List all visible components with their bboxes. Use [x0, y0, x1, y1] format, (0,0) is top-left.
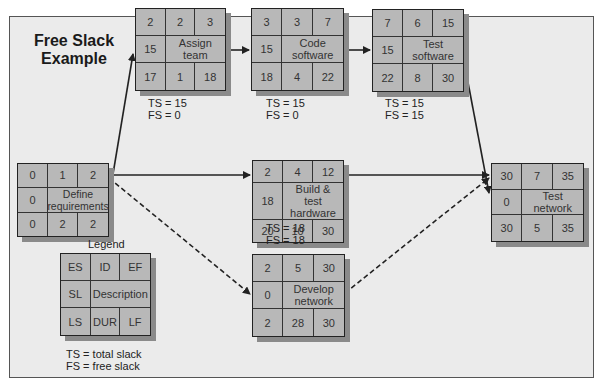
- legend-fs-note: FS = free slack: [66, 360, 142, 372]
- cell-ls: 0: [18, 213, 48, 237]
- legend-title: Legend: [88, 238, 125, 250]
- edge-develop-testnet: [345, 178, 489, 293]
- cell-sl: 0: [492, 190, 522, 216]
- cell-dur: 8: [403, 64, 433, 91]
- cell-lf: 35: [553, 215, 583, 241]
- cell-id: 4: [283, 161, 313, 183]
- cell-es: 2: [253, 255, 283, 282]
- edge-testsw-testnet: [463, 56, 489, 193]
- legend-ef: EF: [120, 254, 150, 281]
- cell-description: Define requirements: [48, 188, 108, 213]
- free-slack-label: FS = 15: [385, 109, 424, 121]
- node-test-software: 7 6 15 15 Test software 22 8 30: [372, 9, 464, 92]
- cell-lf: 30: [433, 64, 463, 91]
- legend-id: ID: [91, 254, 121, 281]
- cell-lf: 18: [195, 63, 225, 90]
- cell-id: 1: [48, 164, 78, 188]
- cell-es: 30: [492, 164, 522, 190]
- slack-testsw: TS = 15 FS = 15: [385, 97, 424, 121]
- cell-ef: 7: [313, 9, 343, 36]
- cell-es: 0: [18, 164, 48, 188]
- cell-ls: 2: [253, 309, 283, 336]
- cell-es: 3: [252, 9, 282, 36]
- cell-es: 2: [136, 9, 166, 36]
- node-code-software: 3 3 7 15 Code software 18 4 22: [251, 8, 344, 91]
- free-slack-label: FS = 0: [266, 109, 305, 121]
- legend-sl: SL: [61, 281, 91, 308]
- cell-lf: 30: [314, 309, 344, 336]
- cell-es: 7: [373, 10, 403, 37]
- cell-ef: 2: [78, 164, 108, 188]
- cell-sl: 15: [252, 36, 282, 63]
- cell-id: 3: [282, 9, 312, 36]
- cell-lf: 2: [78, 213, 108, 237]
- cell-sl: 15: [136, 36, 166, 63]
- cell-id: 6: [403, 10, 433, 37]
- cell-ef: 15: [433, 10, 463, 37]
- legend-node: ES ID EF SL Description LS DUR LF: [60, 253, 151, 336]
- cell-sl: 0: [253, 282, 283, 309]
- edge-define-assign: [109, 54, 133, 198]
- cell-id: 2: [166, 9, 196, 36]
- total-slack-label: TS = 15: [148, 97, 187, 109]
- cell-dur: 28: [283, 309, 313, 336]
- total-slack-label: TS = 15: [385, 97, 424, 109]
- cell-ls: 30: [492, 215, 522, 241]
- cell-ls: 18: [252, 63, 282, 90]
- cell-description: Build & test hardware: [283, 183, 343, 220]
- cell-ef: 3: [195, 9, 225, 36]
- legend-lf: LF: [120, 308, 150, 335]
- legend-es: ES: [61, 254, 91, 281]
- total-slack-label: TS = 15: [266, 97, 305, 109]
- cell-ef: 35: [553, 164, 583, 190]
- cell-id: 5: [283, 255, 313, 282]
- legend-ts-note: TS = total slack: [66, 348, 142, 360]
- cell-id: 7: [522, 164, 552, 190]
- cell-dur: 4: [282, 63, 312, 90]
- legend-description: Description: [91, 281, 150, 308]
- cell-lf: 30: [313, 220, 343, 242]
- cell-ls: 17: [136, 63, 166, 90]
- cell-dur: 1: [166, 63, 196, 90]
- slack-code: TS = 15 FS = 0: [266, 97, 305, 121]
- slack-assign: TS = 15 FS = 0: [148, 97, 187, 121]
- cell-ls: 22: [373, 64, 403, 91]
- legend-notes: TS = total slack FS = free slack: [66, 348, 142, 372]
- node-define-requirements: 0 1 2 0 Define requirements 0 2 2: [17, 163, 109, 237]
- legend-ls: LS: [61, 308, 91, 335]
- slack-build: TS = 18 FS = 18: [266, 222, 305, 246]
- node-assign-team: 2 2 3 15 Assign team 17 1 18: [135, 8, 226, 91]
- cell-lf: 22: [313, 63, 343, 90]
- cell-ef: 12: [313, 161, 343, 183]
- cell-ef: 30: [314, 255, 344, 282]
- cell-description: Code software: [282, 36, 343, 63]
- legend-dur: DUR: [91, 308, 121, 335]
- node-develop-network: 2 5 30 0 Develop network 2 28 30: [252, 254, 345, 337]
- cell-dur: 5: [522, 215, 552, 241]
- cell-description: Develop network: [283, 282, 344, 309]
- node-test-network: 30 7 35 0 Test network 30 5 35: [491, 163, 584, 242]
- free-slack-label: FS = 18: [266, 234, 305, 246]
- cell-description: Test software: [403, 37, 463, 64]
- cell-es: 2: [253, 161, 283, 183]
- cell-description: Test network: [522, 190, 583, 216]
- cell-sl: 0: [18, 188, 48, 213]
- cell-sl: 15: [373, 37, 403, 64]
- cell-dur: 2: [48, 213, 78, 237]
- cell-description: Assign team: [166, 36, 225, 63]
- cell-sl: 18: [253, 183, 283, 220]
- free-slack-label: FS = 0: [148, 109, 187, 121]
- total-slack-label: TS = 18: [266, 222, 305, 234]
